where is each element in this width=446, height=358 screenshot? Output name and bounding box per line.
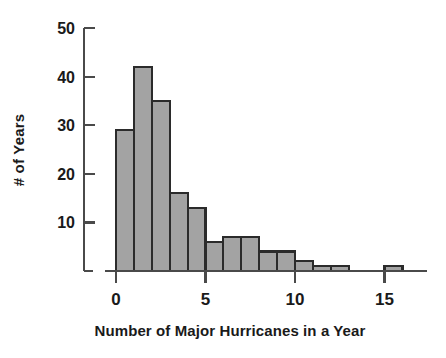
x-tick-label: 10 [286, 290, 305, 309]
bars-group [116, 67, 402, 271]
histogram-bar [134, 67, 152, 271]
x-tick-label: 15 [375, 290, 394, 309]
y-tick-label: 40 [57, 69, 75, 86]
plot-area: 051015 1020304050 [0, 0, 446, 358]
x-tick-label: 0 [111, 290, 120, 309]
histogram-bar [223, 237, 241, 271]
histogram-bar [277, 252, 295, 271]
histogram-bar [295, 261, 313, 271]
histogram-bar [170, 193, 188, 271]
histogram-bar [241, 237, 259, 271]
y-tick-label: 10 [57, 214, 75, 231]
histogram-bar [188, 208, 206, 271]
histogram-figure: # of Years Number of Major Hurricanes in… [0, 0, 446, 358]
histogram-bar [206, 242, 224, 271]
x-tick-group: 051015 [111, 271, 394, 309]
histogram-bar [259, 252, 277, 271]
y-tick-label: 20 [57, 166, 75, 183]
y-tick-group: 1020304050 [57, 20, 95, 231]
x-tick-label: 5 [201, 290, 210, 309]
histogram-bar [116, 130, 134, 271]
histogram-bar [152, 101, 170, 271]
y-tick-label: 50 [57, 20, 75, 37]
y-tick-label: 30 [57, 117, 75, 134]
